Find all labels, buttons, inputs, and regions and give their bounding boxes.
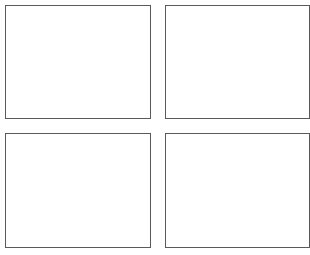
panel-bottom-left — [5, 133, 151, 248]
panel-top-right — [165, 5, 310, 119]
panel-bottom-right — [165, 133, 310, 248]
panel-top-left — [5, 5, 151, 119]
